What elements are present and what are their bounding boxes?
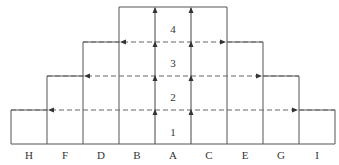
level-label: 1 (170, 126, 176, 138)
arrow-right-icon (220, 40, 226, 45)
step-e (227, 42, 263, 144)
column-label: B (133, 149, 140, 161)
arrow-right-icon (292, 108, 298, 113)
arrow-left-icon (84, 74, 90, 79)
column-label: E (242, 149, 249, 161)
column-label: D (97, 149, 105, 161)
column-label: F (62, 149, 68, 161)
arrow-left-icon (120, 40, 126, 45)
step-i (299, 110, 335, 144)
column-label: C (205, 149, 212, 161)
arrow-left-icon (48, 108, 54, 113)
level-label: 2 (170, 91, 176, 103)
level-labels: 1 2 3 4 (170, 23, 176, 138)
column-label: A (169, 149, 177, 161)
column-label: I (315, 149, 319, 161)
column-label: H (25, 149, 33, 161)
step-h (11, 110, 47, 144)
column-label: G (277, 149, 285, 161)
column-labels: H F D B A C E G I (25, 149, 319, 161)
arrow-right-icon (256, 74, 262, 79)
level-label: 4 (170, 23, 176, 35)
stepped-pyramid-diagram: 1 2 3 4 H F D B A C E G I (0, 0, 339, 165)
level-label: 3 (170, 57, 176, 69)
step-d (83, 42, 119, 144)
